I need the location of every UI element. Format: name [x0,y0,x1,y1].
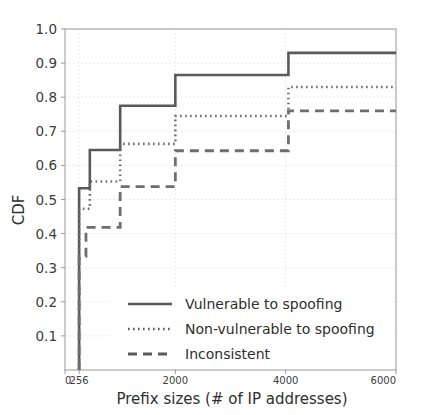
y-axis-ticks: 0.10.20.30.40.50.60.70.80.91.0 [36,21,65,344]
x-tick-label: 6000 [371,375,396,386]
x-tick-label: 4000 [273,375,298,386]
x-axis-label: Prefix sizes (# of IP addresses) [116,390,347,408]
y-tick-label: 0.4 [36,226,57,242]
chart-legend: Vulnerable to spoofingNon-vulnerable to … [110,288,392,368]
chart-canvas: 0.10.20.30.40.50.60.70.80.91.0 025620004… [0,0,426,415]
legend-label: Non-vulnerable to spoofing [185,321,375,337]
legend-label: Vulnerable to spoofing [185,296,342,312]
y-tick-label: 1.0 [36,21,57,37]
y-tick-label: 0.8 [36,89,57,105]
y-axis-label: CDF [10,195,28,226]
legend-label: Inconsistent [185,346,271,362]
y-tick-label: 0.5 [36,192,57,208]
x-axis-ticks: 0256200040006000 [65,370,396,386]
y-tick-label: 0.9 [36,55,57,71]
y-tick-label: 0.3 [36,260,57,276]
x-tick-label: 256 [70,375,89,386]
x-tick-label: 2000 [163,375,188,386]
y-tick-label: 0.7 [36,123,57,139]
cdf-chart-figure: 0.10.20.30.40.50.60.70.80.91.0 025620004… [0,0,426,415]
y-tick-label: 0.6 [36,157,57,173]
y-tick-label: 0.2 [36,294,57,310]
y-tick-label: 0.1 [36,328,57,344]
